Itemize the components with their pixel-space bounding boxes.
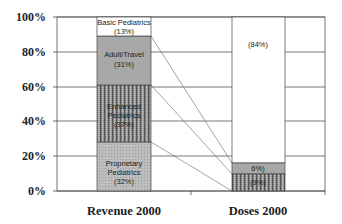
y-tick-40: 40% — [22, 114, 46, 128]
label-doses-bottom-pct: (9%) — [250, 178, 266, 187]
label-enhanced-pediatrics: Pediatrics — [108, 111, 141, 120]
y-tick-60: 60% — [22, 80, 46, 94]
label-adult-travel-pct: (31%) — [114, 60, 135, 69]
x-label-revenue-2000: Revenue 2000 — [87, 204, 161, 218]
stacked-bar-chart: 100% 80% 60% 40% 20% 0% Basic Pediatrics… — [0, 0, 342, 224]
label-basic-pediatrics: Basic Pediatrics — [97, 18, 151, 27]
segment-doses-top — [232, 17, 285, 163]
y-tick-80: 80% — [22, 45, 46, 59]
label-proprietary-pediatrics: Pediatrics — [108, 168, 141, 177]
label-adult-travel: Adult/Travel — [104, 50, 144, 59]
label-enhanced-pct: (37%) — [114, 120, 135, 129]
x-axis: Revenue 2000 Doses 2000 — [87, 204, 287, 218]
label-proprietary-pct: (32%) — [114, 177, 135, 186]
y-tick-0: 0% — [28, 184, 46, 198]
bar-doses-2000: (84%) 6%) (9%) — [232, 17, 285, 191]
label-basic-pediatrics-pct: (13%) — [114, 27, 135, 36]
x-label-doses-2000: Doses 2000 — [229, 204, 288, 218]
y-tick-20: 20% — [22, 149, 46, 163]
bar-revenue-2000: Basic Pediatrics (13%) Adult/Travel (31%… — [97, 17, 151, 191]
y-tick-100: 100% — [16, 10, 46, 24]
label-doses-middle-pct: 6%) — [251, 164, 265, 173]
y-axis: 100% 80% 60% 40% 20% 0% — [16, 10, 46, 198]
label-enhanced: Enhanced — [107, 102, 141, 111]
label-proprietary: Proprietary — [106, 159, 143, 168]
label-doses-top-pct: (84%) — [248, 40, 269, 49]
